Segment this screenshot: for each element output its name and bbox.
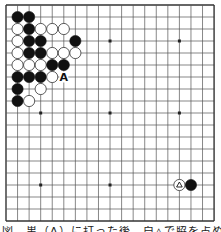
point-label: A bbox=[60, 71, 69, 84]
star-point bbox=[109, 40, 112, 43]
star-point bbox=[109, 112, 112, 115]
white-stone bbox=[12, 59, 23, 70]
white-stone bbox=[24, 95, 35, 106]
black-stone bbox=[70, 35, 81, 46]
black-stone bbox=[12, 83, 23, 94]
black-stone bbox=[24, 35, 35, 46]
white-stone bbox=[35, 23, 46, 34]
caption-text: 図 黒（A）に打った後、白△で脇を占める形 bbox=[2, 226, 221, 232]
black-stone bbox=[12, 71, 23, 82]
white-stone bbox=[58, 47, 69, 58]
white-stone bbox=[47, 71, 58, 82]
black-stone bbox=[24, 71, 35, 82]
go-board: A bbox=[0, 0, 221, 226]
black-stone bbox=[24, 11, 35, 22]
white-stone bbox=[47, 47, 58, 58]
black-stone bbox=[24, 23, 35, 34]
black-stone bbox=[47, 59, 58, 70]
white-stone bbox=[35, 59, 46, 70]
white-stone bbox=[70, 47, 81, 58]
diagram-caption: 図 黒（A）に打った後、白△で脇を占める形 bbox=[0, 226, 221, 232]
white-stone bbox=[58, 23, 69, 34]
star-point bbox=[39, 184, 42, 187]
star-point bbox=[178, 40, 181, 43]
black-stone bbox=[35, 47, 46, 58]
black-stone bbox=[35, 35, 46, 46]
black-stone bbox=[12, 95, 23, 106]
white-stone bbox=[47, 23, 58, 34]
white-stone bbox=[12, 35, 23, 46]
black-stone bbox=[58, 59, 69, 70]
black-stone bbox=[12, 11, 23, 22]
white-stone bbox=[35, 83, 46, 94]
white-stone bbox=[12, 47, 23, 58]
star-point bbox=[39, 112, 42, 115]
star-point bbox=[109, 184, 112, 187]
white-stone bbox=[24, 59, 35, 70]
black-stone bbox=[24, 47, 35, 58]
white-stone bbox=[12, 23, 23, 34]
black-stone bbox=[185, 179, 196, 190]
star-point bbox=[178, 112, 181, 115]
black-stone bbox=[35, 71, 46, 82]
